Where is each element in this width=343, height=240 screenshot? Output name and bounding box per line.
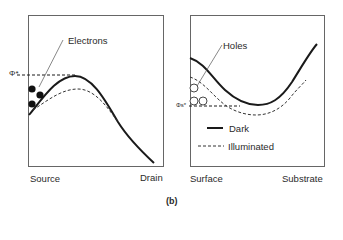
surface-label: Surface — [190, 174, 223, 184]
electron-dot — [28, 85, 35, 92]
drain-label: Drain — [140, 173, 163, 183]
right-illuminated-curve — [190, 77, 306, 115]
electrons-label: Electrons — [68, 36, 108, 46]
hole-circle — [199, 97, 207, 105]
holes-callout-line — [197, 45, 222, 86]
figure-label: (b) — [166, 197, 178, 206]
electron-dot — [36, 91, 43, 98]
phi-star-label: Φ* — [9, 70, 19, 78]
phi-s-star-label: Φs* — [176, 102, 186, 108]
electrons-callout-line — [39, 40, 63, 87]
legend-dark-label: Dark — [229, 124, 249, 134]
electron-dot — [28, 100, 35, 107]
holes-label: Holes — [223, 41, 247, 51]
right-dark-curve — [190, 44, 317, 105]
hole-circle — [190, 97, 198, 105]
source-label: Source — [30, 174, 60, 184]
left-dark-curve — [29, 76, 154, 163]
legend-illuminated-label: Illuminated — [228, 142, 274, 152]
hole-circle — [190, 84, 198, 92]
substrate-label: Substrate — [282, 174, 323, 184]
